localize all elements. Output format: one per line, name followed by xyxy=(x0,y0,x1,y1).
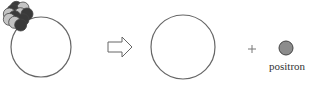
plus-sign xyxy=(248,45,256,53)
positron-emission-diagram xyxy=(0,0,319,94)
positron-label: positron xyxy=(269,60,305,72)
daughter-nucleus xyxy=(151,15,215,79)
dark-nucleon xyxy=(15,19,27,31)
positron-particle xyxy=(279,41,293,55)
parent-nucleus xyxy=(3,1,71,77)
right-arrow-icon xyxy=(108,37,132,57)
